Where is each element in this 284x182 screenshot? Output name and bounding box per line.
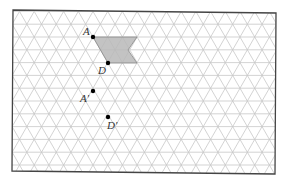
label-d-prime: D' (106, 119, 118, 131)
label-a: A (82, 25, 90, 37)
triangle-grid (0, 0, 284, 182)
point-a (91, 35, 95, 39)
label-d: D (97, 64, 106, 76)
isometric-diagram: A D A' D' (0, 0, 284, 182)
label-a-prime: A' (79, 92, 90, 104)
frame (12, 10, 276, 174)
point-a-prime (91, 89, 95, 93)
point-d (106, 61, 110, 65)
